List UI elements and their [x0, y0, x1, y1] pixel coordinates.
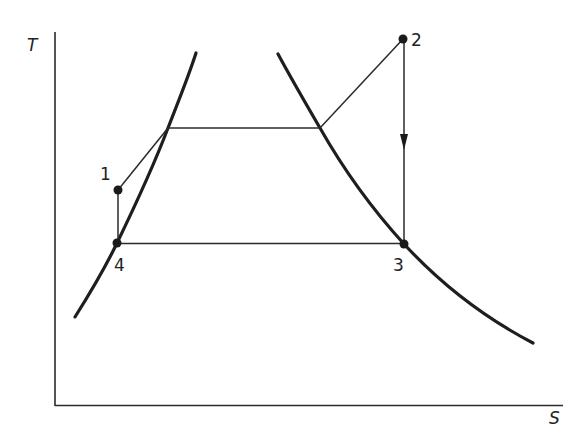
axes: T S [27, 32, 563, 428]
ts-diagram: T S 1 2 3 4 [0, 0, 588, 437]
state-label-1: 1 [100, 164, 111, 184]
state-point-2 [399, 35, 408, 44]
saturated-liquid-curve [75, 53, 196, 317]
state-point-3 [400, 240, 409, 249]
y-axis-label: T [27, 35, 39, 55]
state-label-3: 3 [393, 255, 404, 275]
arrow-down-icon [400, 134, 408, 150]
state-point-4 [113, 239, 122, 248]
state-label-2: 2 [411, 30, 422, 50]
state-label-4: 4 [114, 255, 125, 275]
x-axis-label: S [549, 408, 560, 428]
saturation-dome [75, 53, 533, 343]
process-vapor-to-2 [320, 39, 403, 128]
saturated-vapor-curve [278, 54, 533, 343]
process-1-to-liquid [118, 128, 168, 190]
state-point-1 [114, 186, 123, 195]
